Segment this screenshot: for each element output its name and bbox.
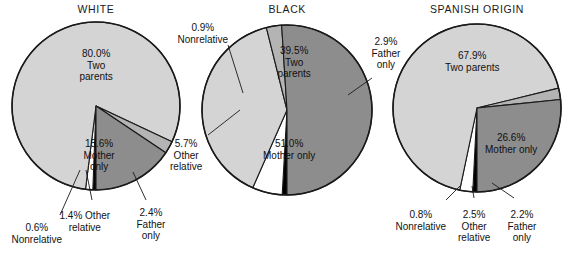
slice-label-spanish-origin-two-parents: 67.9%Two parents bbox=[445, 50, 499, 73]
slice-label-black-nonrelative: 0.9%Nonrelative bbox=[178, 22, 229, 45]
slice-label-spanish-origin-father-only: 2.2%Fatheronly bbox=[508, 209, 537, 244]
pie-chart-figure: WHITE80.0%Twoparents15.6%Motheronly2.4%F… bbox=[0, 0, 572, 256]
slice-label-white-other-relative: 1.4% Otherrelative bbox=[60, 210, 111, 233]
slice-label-black-two-parents: 39.5%Twoparents bbox=[278, 45, 311, 80]
slice-label-black-father-only: 2.9%Fatheronly bbox=[372, 36, 401, 71]
slice-label-spanish-origin-other-relative: 2.5%Otherrelative bbox=[458, 209, 490, 244]
slice-label-white-two-parents: 80.0%Twoparents bbox=[80, 48, 113, 83]
slice-label-black-other-relative: 5.7%Otherrelative bbox=[170, 138, 202, 173]
slice-label-spanish-origin-nonrelative: 0.8%Nonrelative bbox=[396, 209, 447, 232]
slice-label-black-mother-only: 51.0%Mother only bbox=[263, 138, 315, 161]
chart-title-black: BLACK bbox=[269, 3, 306, 15]
chart-title-white: WHITE bbox=[78, 3, 115, 15]
chart-title-spanish-origin: SPANISH ORIGIN bbox=[430, 3, 524, 15]
slice-label-white-father-only: 2.4%Fatheronly bbox=[137, 207, 166, 242]
slice-label-spanish-origin-mother-only: 26.6%Mother only bbox=[485, 132, 537, 155]
slice-label-white-nonrelative: 0.6%Nonrelative bbox=[12, 222, 63, 245]
slice-label-white-mother-only: 15.6%Motheronly bbox=[84, 138, 115, 173]
